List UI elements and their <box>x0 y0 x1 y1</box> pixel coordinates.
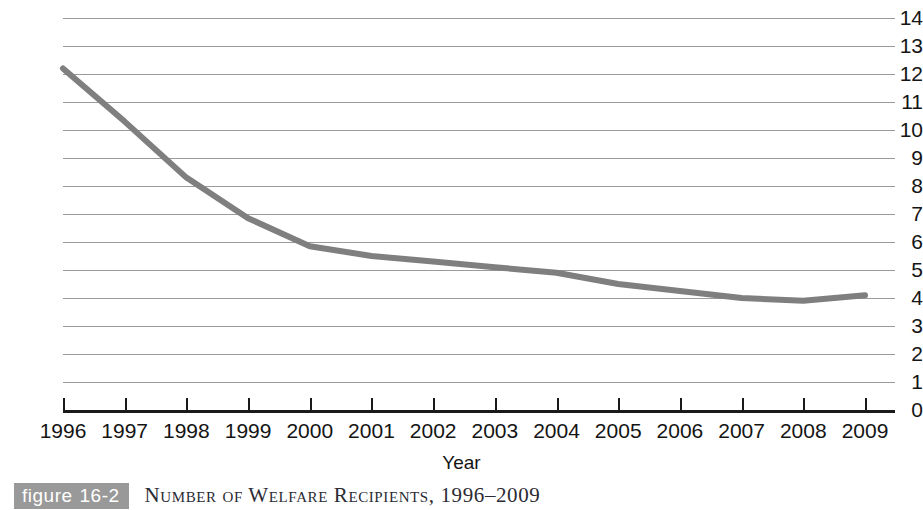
x-axis-tick <box>803 398 805 410</box>
figure-number-badge: figure 16-2 <box>14 483 129 509</box>
x-axis-tick <box>125 398 127 410</box>
x-axis-tick <box>680 398 682 410</box>
x-axis-tick <box>495 398 497 410</box>
x-axis-tick <box>865 398 867 410</box>
x-axis-tick-label: 2002 <box>402 419 464 443</box>
figure-badge-number: 16-2 <box>80 483 120 509</box>
figure-caption: figure 16-2 Number of Welfare Recipients… <box>0 481 923 510</box>
x-axis-tick <box>618 398 620 410</box>
x-axis-line <box>63 410 895 413</box>
x-axis-tick-label: 1998 <box>155 419 217 443</box>
x-axis-tick-label: 2007 <box>711 419 773 443</box>
x-axis-tick <box>371 398 373 410</box>
chart-plot-area: 14131211109876543210 1996199719981999200… <box>0 0 923 455</box>
x-axis-tick-label: 2000 <box>279 419 341 443</box>
figure-caption-title: Number of Welfare Recipients, 1996–2009 <box>145 483 541 508</box>
x-axis-tick-label: 1997 <box>94 419 156 443</box>
x-axis-tick-label: 2001 <box>340 419 402 443</box>
x-axis-tick <box>742 398 744 410</box>
x-axis-tick-label: 2009 <box>834 419 896 443</box>
figure-container: 14131211109876543210 1996199719981999200… <box>0 0 923 510</box>
line-series-welfare-recipients <box>0 0 923 455</box>
x-axis-tick-label: 2008 <box>772 419 834 443</box>
x-axis-tick <box>433 398 435 410</box>
x-axis-tick-label: 1999 <box>217 419 279 443</box>
x-axis-tick-label: 2003 <box>464 419 526 443</box>
x-axis-tick-label: 2005 <box>587 419 649 443</box>
x-axis-title: Year <box>0 452 923 474</box>
x-axis-tick-label: 1996 <box>32 419 94 443</box>
x-axis-tick-label: 2006 <box>649 419 711 443</box>
x-axis-tick <box>63 398 65 410</box>
x-axis-tick <box>557 398 559 410</box>
x-axis-tick <box>186 398 188 410</box>
x-axis-tick <box>248 398 250 410</box>
x-axis-tick-label: 2004 <box>526 419 588 443</box>
x-axis-tick <box>310 398 312 410</box>
figure-badge-word: figure <box>22 483 73 509</box>
